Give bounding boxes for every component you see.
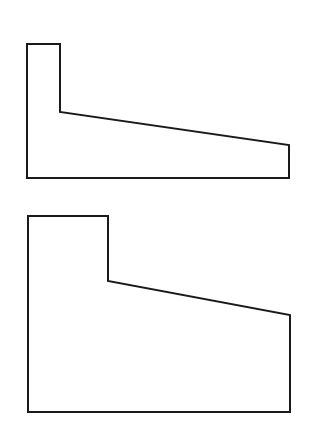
diagram-canvas bbox=[0, 0, 321, 440]
lower-wall-profile-shape bbox=[28, 216, 290, 412]
diagram-svg bbox=[0, 0, 321, 440]
upper-wall-profile-shape bbox=[27, 44, 289, 178]
